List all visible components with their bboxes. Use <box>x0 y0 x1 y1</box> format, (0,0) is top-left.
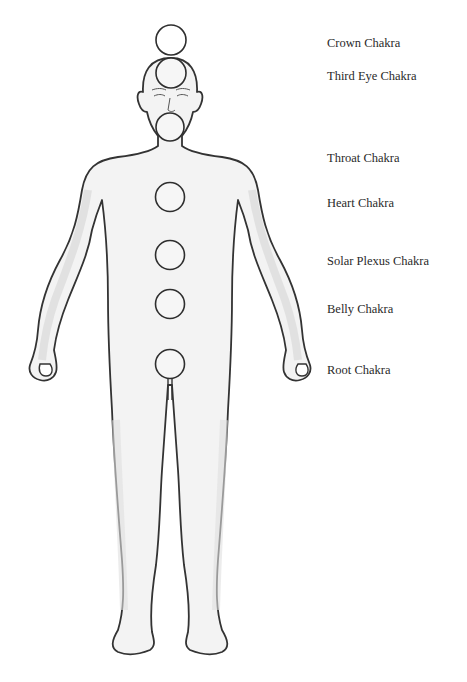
throat-chakra-circle <box>156 113 184 141</box>
crown-chakra-label: Crown Chakra <box>327 36 400 50</box>
root-chakra-circle <box>156 350 185 379</box>
arm-shading-left <box>42 190 88 360</box>
crown-chakra-circle <box>156 25 186 55</box>
arm-shading-right <box>252 190 298 360</box>
belly-chakra-circle <box>156 290 185 319</box>
third-eye-chakra-circle <box>156 58 186 88</box>
heart-chakra-label: Heart Chakra <box>327 196 394 210</box>
throat-chakra-label: Throat Chakra <box>327 151 400 165</box>
right-hand-detail <box>296 364 308 376</box>
third-eye-chakra-label: Third Eye Chakra <box>327 69 417 83</box>
body-outline-illustration <box>0 0 467 682</box>
chakra-diagram: Crown Chakra Third Eye Chakra Throat Cha… <box>0 0 467 682</box>
root-chakra-label: Root Chakra <box>327 363 391 377</box>
belly-chakra-label: Belly Chakra <box>327 302 393 316</box>
solar-plexus-chakra-label: Solar Plexus Chakra <box>327 254 429 268</box>
left-hand-detail <box>39 364 52 376</box>
heart-chakra-circle <box>156 183 185 212</box>
solar-plexus-chakra-circle <box>156 241 185 270</box>
